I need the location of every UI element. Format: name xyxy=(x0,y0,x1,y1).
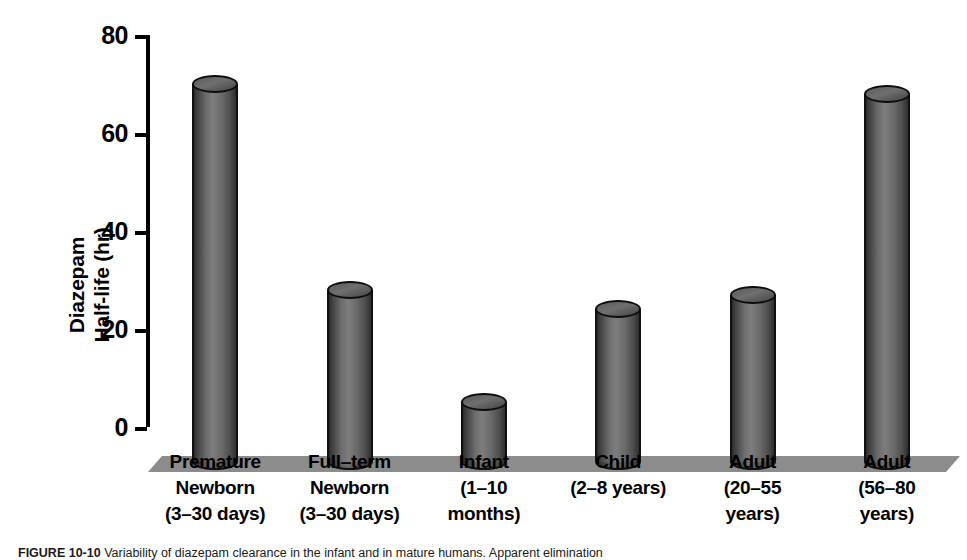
category-label-line: Full–term xyxy=(282,449,416,475)
category-label-line: (1–10 xyxy=(417,475,551,501)
category-label-3: Infant(1–10months) xyxy=(417,449,551,527)
plot-area: 020406080 xyxy=(146,35,952,427)
figure-caption: FIGURE 10-10 Variability of diazepam cle… xyxy=(18,546,958,560)
bar-top-ellipse xyxy=(192,75,238,93)
bar-top-ellipse xyxy=(730,286,776,304)
bar-body xyxy=(730,295,776,462)
bar-5 xyxy=(730,286,776,462)
bar-body xyxy=(327,290,373,462)
category-label-4: Child(2–8 years) xyxy=(551,449,685,501)
bar-body xyxy=(595,309,641,462)
y-axis-title-line-2: Half-life (hr) xyxy=(89,150,114,420)
bar-4 xyxy=(595,300,641,462)
bar-series xyxy=(146,35,952,462)
category-label-line: years) xyxy=(685,501,819,527)
bar-body xyxy=(864,94,910,462)
y-axis-title: Diazepam Half-life (hr) xyxy=(8,150,64,420)
figure-caption-text: Variability of diazepam clearance in the… xyxy=(104,546,603,560)
bar-body xyxy=(192,84,238,462)
y-tick-label: 20 xyxy=(101,315,128,344)
category-label-line: (2–8 years) xyxy=(551,475,685,501)
x-axis-category-labels: PrematureNewborn(3–30 days)Full–termNewb… xyxy=(146,449,952,539)
category-label-line: Adult xyxy=(685,449,819,475)
category-label-line: Adult xyxy=(820,449,954,475)
y-axis-title-line-1: Diazepam xyxy=(64,150,89,420)
category-label-line: Premature xyxy=(148,449,282,475)
category-label-line: Child xyxy=(551,449,685,475)
category-label-2: Full–termNewborn(3–30 days) xyxy=(282,449,416,527)
category-label-line: Infant xyxy=(417,449,551,475)
category-label-line: Newborn xyxy=(148,475,282,501)
bar-2 xyxy=(327,281,373,462)
category-label-line: years) xyxy=(820,501,954,527)
category-label-line: (56–80 xyxy=(820,475,954,501)
category-label-line: Newborn xyxy=(282,475,416,501)
figure-caption-label: FIGURE 10-10 xyxy=(18,546,101,560)
category-label-5: Adult(20–55years) xyxy=(685,449,819,527)
category-label-line: (3–30 days) xyxy=(148,501,282,527)
y-tick-label: 0 xyxy=(115,413,128,442)
bar-top-ellipse xyxy=(327,281,373,299)
bar-1 xyxy=(192,75,238,462)
category-label-line: (20–55 xyxy=(685,475,819,501)
y-tick-label: 80 xyxy=(101,21,128,50)
bar-6 xyxy=(864,85,910,462)
category-label-6: Adult(56–80years) xyxy=(820,449,954,527)
category-label-1: PrematureNewborn(3–30 days) xyxy=(148,449,282,527)
y-tick-label: 60 xyxy=(101,119,128,148)
category-label-line: (3–30 days) xyxy=(282,501,416,527)
category-label-line: months) xyxy=(417,501,551,527)
y-tick-label: 40 xyxy=(101,217,128,246)
bar-top-ellipse xyxy=(864,85,910,103)
